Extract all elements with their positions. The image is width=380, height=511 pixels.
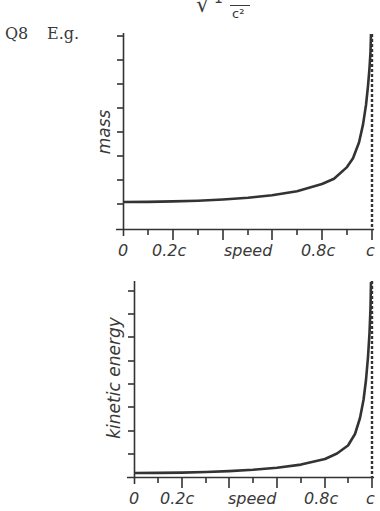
ke-x-tick-0: 0 bbox=[129, 489, 139, 508]
ke-x-axis-label: speed bbox=[228, 489, 276, 508]
kinetic-energy-chart bbox=[0, 0, 380, 511]
ke-curve bbox=[135, 282, 371, 473]
ke-x-tick-c: c bbox=[366, 489, 375, 508]
ke-y-label: kinetic energy bbox=[104, 317, 124, 438]
ke-x-tick-0.2c: 0.2c bbox=[160, 489, 194, 508]
ke-x-tick-0.8c: 0.8c bbox=[304, 489, 338, 508]
